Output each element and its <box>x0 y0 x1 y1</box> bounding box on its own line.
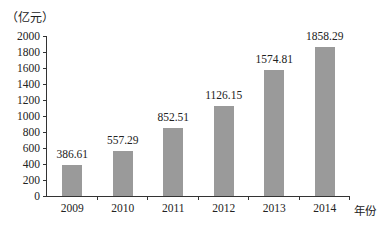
bar-2014 <box>315 47 335 196</box>
y-tick <box>43 180 46 181</box>
bar-2012 <box>214 106 234 196</box>
y-tick <box>43 100 46 101</box>
y-tick <box>43 196 46 197</box>
bar-value-label: 1858.29 <box>295 30 355 42</box>
y-tick-label: 400 <box>23 158 40 170</box>
y-tick <box>43 164 46 165</box>
x-tick-label: 2010 <box>103 202 143 214</box>
y-tick-label: 800 <box>23 126 40 138</box>
bar-2010 <box>113 151 133 196</box>
y-tick-label: 2000 <box>17 30 40 42</box>
bar-2011 <box>163 128 183 196</box>
x-tick <box>349 196 350 200</box>
y-tick-label: 1400 <box>17 78 40 90</box>
y-tick-label: 0 <box>34 190 40 202</box>
x-axis-unit-label: 年份 <box>354 202 376 218</box>
y-tick-label: 1000 <box>17 110 40 122</box>
y-tick <box>43 68 46 69</box>
y-axis-unit-label: （亿元） <box>6 8 54 26</box>
y-tick-label: 1600 <box>17 62 40 74</box>
x-tick <box>97 196 98 200</box>
y-tick-label: 1800 <box>17 46 40 58</box>
x-tick <box>248 196 249 200</box>
x-tick-label: 2012 <box>204 202 244 214</box>
bar-value-label: 1574.81 <box>244 53 304 65</box>
y-tick <box>43 36 46 37</box>
x-tick-label: 2011 <box>153 202 193 214</box>
y-tick <box>43 116 46 117</box>
bar-chart: （亿元） 02004006008001000120014001600180020… <box>0 0 381 229</box>
x-tick-label: 2014 <box>305 202 345 214</box>
bar-value-label: 386.61 <box>42 148 102 160</box>
y-tick <box>43 84 46 85</box>
bar-value-label: 557.29 <box>93 134 153 146</box>
x-tick <box>147 196 148 200</box>
x-tick-label: 2009 <box>52 202 92 214</box>
y-tick-label: 600 <box>23 142 40 154</box>
bar-value-label: 1126.15 <box>194 89 254 101</box>
y-tick <box>43 132 46 133</box>
x-tick-label: 2013 <box>254 202 294 214</box>
bar-value-label: 852.51 <box>143 111 203 123</box>
y-tick <box>43 52 46 53</box>
bar-2009 <box>62 165 82 196</box>
y-tick-label: 200 <box>23 174 40 186</box>
bar-2013 <box>264 70 284 196</box>
y-tick-label: 1200 <box>17 94 40 106</box>
x-tick <box>198 196 199 200</box>
x-tick <box>299 196 300 200</box>
y-axis-line <box>46 36 47 196</box>
